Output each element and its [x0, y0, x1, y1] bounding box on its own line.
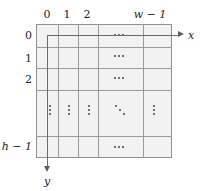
row-label-0: 0	[10, 30, 32, 41]
figure-canvas: 0 1 2 w − 1 0 1 2 h − 1 x y	[0, 0, 201, 191]
grid-background	[36, 24, 172, 158]
x-axis-label: x	[188, 30, 194, 41]
y-axis-label: y	[44, 176, 50, 187]
column-label-w-minus-1: w − 1	[130, 9, 170, 20]
grid-hline-1	[36, 47, 172, 48]
grid-hline-4	[36, 136, 172, 137]
grid-hline-2	[36, 68, 172, 69]
x-axis-line	[47, 35, 180, 36]
y-axis-line	[47, 35, 48, 168]
grid-vline-4	[143, 24, 144, 158]
row-label-2: 2	[10, 74, 32, 85]
grid-vline-1	[58, 24, 59, 158]
y-axis-arrowhead-icon	[44, 166, 50, 172]
row-label-1: 1	[10, 53, 32, 64]
pixel-grid	[36, 24, 172, 158]
grid-vline-3	[98, 24, 99, 158]
grid-hline-3	[36, 90, 172, 91]
grid-vline-2	[78, 24, 79, 158]
x-axis-arrowhead-icon	[178, 31, 184, 37]
column-label-1: 1	[60, 9, 74, 20]
column-label-0: 0	[40, 9, 54, 20]
row-label-h-minus-1: h − 1	[1, 141, 32, 152]
column-label-2: 2	[80, 9, 94, 20]
